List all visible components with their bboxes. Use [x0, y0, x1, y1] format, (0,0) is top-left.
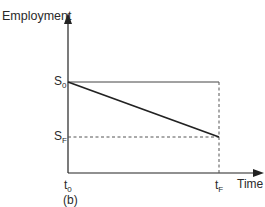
- s0-base: S: [54, 74, 62, 88]
- sf-sub: F: [62, 136, 67, 145]
- employment-path-line: [68, 82, 219, 137]
- panel-label: (b): [63, 194, 78, 206]
- x-axis-arrow-icon: [253, 169, 264, 177]
- chart-canvas: [0, 0, 265, 207]
- tf-sub: F: [218, 185, 223, 194]
- y-axis-label: Employment: [2, 10, 71, 22]
- y-tick-sf: SF: [54, 130, 67, 147]
- x-axis-label: Time: [237, 178, 263, 190]
- x-tick-tf: tF: [215, 179, 223, 196]
- y-tick-s0: S0: [54, 75, 66, 92]
- sf-base: S: [54, 129, 62, 143]
- s0-sub: 0: [62, 81, 66, 90]
